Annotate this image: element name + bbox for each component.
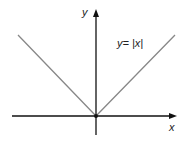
equation-label: y= |x| [117,38,143,49]
abs-value-graph [0,0,187,142]
x-axis-label: x [169,122,175,133]
y-axis-arrow-icon [93,9,99,17]
y-axis-label: y [82,7,88,18]
origin-point [94,114,98,118]
x-axis-arrow-icon [169,113,177,119]
